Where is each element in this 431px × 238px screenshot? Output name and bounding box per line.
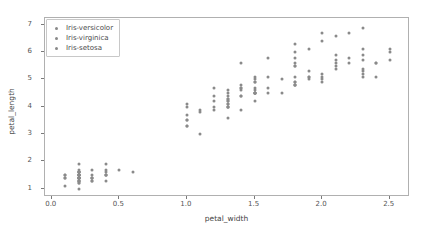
data-point	[253, 75, 256, 78]
data-point	[77, 176, 80, 179]
data-point	[294, 83, 297, 86]
data-point	[361, 59, 364, 62]
data-point	[294, 51, 297, 54]
y-axis-tick-label: 3	[28, 129, 32, 137]
data-point	[361, 26, 364, 29]
data-point	[334, 34, 337, 37]
data-point	[64, 176, 67, 179]
x-axis-tick	[186, 196, 187, 199]
data-point	[199, 111, 202, 114]
data-point	[212, 86, 215, 89]
data-point	[361, 75, 364, 78]
y-axis-tick-label: 7	[28, 20, 32, 28]
data-point	[253, 92, 256, 95]
data-point	[240, 108, 243, 111]
data-point	[104, 163, 107, 166]
data-point	[361, 67, 364, 70]
data-point	[240, 83, 243, 86]
data-point	[91, 179, 94, 182]
data-point	[267, 86, 270, 89]
x-axis-tick-label: 1.0	[180, 200, 191, 208]
data-point	[240, 94, 243, 97]
data-point	[77, 182, 80, 185]
data-point	[77, 179, 80, 182]
data-point	[280, 92, 283, 95]
data-point	[185, 103, 188, 106]
data-point	[226, 89, 229, 92]
data-point	[267, 92, 270, 95]
y-axis-tick-label: 4	[28, 102, 32, 110]
y-axis-tick	[41, 78, 44, 79]
data-point	[321, 32, 324, 35]
data-point	[388, 48, 391, 51]
y-axis-tick-label: 2	[28, 156, 32, 164]
x-axis-tick-label: 0.5	[113, 200, 124, 208]
data-point	[212, 105, 215, 108]
y-axis-tick	[41, 51, 44, 52]
data-point	[361, 48, 364, 51]
y-axis-tick	[41, 188, 44, 189]
y-axis-label: petal_length	[7, 67, 16, 157]
legend-item-label: Iris-virginica	[66, 33, 109, 43]
data-point	[253, 86, 256, 89]
data-point	[267, 56, 270, 59]
data-point	[226, 97, 229, 100]
x-axis-label-text: petal_width	[205, 214, 248, 223]
y-axis-tick	[41, 106, 44, 107]
data-point	[375, 62, 378, 65]
data-point	[334, 62, 337, 65]
data-point	[280, 78, 283, 81]
data-point	[77, 163, 80, 166]
legend-item-label: Iris-setosa	[66, 43, 102, 53]
data-point	[294, 56, 297, 59]
data-point	[321, 81, 324, 84]
legend-item[interactable]: Iris-setosa	[51, 43, 113, 53]
legend-marker-icon	[55, 27, 58, 30]
legend-item-label: Iris-versicolor	[66, 23, 113, 33]
data-point	[321, 73, 324, 76]
data-point	[388, 59, 391, 62]
x-axis-label: petal_width	[0, 214, 431, 223]
data-point	[226, 103, 229, 106]
data-point	[199, 133, 202, 136]
scatter-plot-figure: 0.00.51.01.52.02.51234567 Iris-versicolo…	[0, 0, 431, 238]
data-point	[226, 116, 229, 119]
y-axis-tick-label: 5	[28, 74, 32, 82]
data-point	[294, 64, 297, 67]
data-point	[361, 53, 364, 56]
x-axis-tick	[51, 196, 52, 199]
legend-item[interactable]: Iris-versicolor	[51, 23, 113, 33]
data-point	[226, 105, 229, 108]
data-point	[104, 179, 107, 182]
legend-item[interactable]: Iris-virginica	[51, 33, 113, 43]
data-point	[375, 75, 378, 78]
data-point	[348, 62, 351, 65]
data-point	[185, 114, 188, 117]
data-point	[212, 94, 215, 97]
x-axis-tick	[389, 196, 390, 199]
data-point	[240, 89, 243, 92]
y-axis-tick-label: 6	[28, 47, 32, 55]
y-axis-tick	[41, 133, 44, 134]
data-point	[185, 119, 188, 122]
data-point	[321, 40, 324, 43]
x-axis-tick-label: 2.5	[383, 200, 394, 208]
x-axis-tick	[254, 196, 255, 199]
data-point	[307, 78, 310, 81]
y-axis-tick-label: 1	[28, 184, 32, 192]
data-point	[334, 67, 337, 70]
data-point	[185, 105, 188, 108]
data-point	[307, 48, 310, 51]
x-axis-tick-label: 0.0	[45, 200, 56, 208]
data-point	[361, 73, 364, 76]
data-point	[253, 81, 256, 84]
data-point	[240, 62, 243, 65]
data-point	[267, 75, 270, 78]
x-axis-tick	[321, 196, 322, 199]
data-point	[253, 100, 256, 103]
data-point	[388, 51, 391, 54]
data-point	[334, 53, 337, 56]
data-point	[185, 124, 188, 127]
data-point	[348, 56, 351, 59]
data-point	[348, 32, 351, 35]
